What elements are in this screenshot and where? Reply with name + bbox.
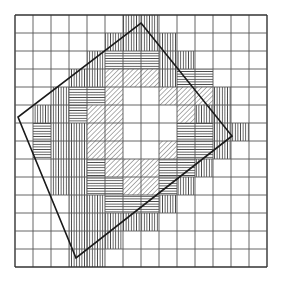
hatched-cell-r7-c8 (159, 141, 177, 159)
hatched-cell-r3-c7 (141, 69, 159, 87)
hatched-cell-r6-c3 (69, 123, 87, 141)
hatched-cell-r8-c6 (123, 159, 141, 177)
hatched-cell-r10-c3 (69, 195, 87, 213)
hatched-cell-r8-c3 (69, 159, 87, 177)
hatched-cell-r9-c3 (69, 177, 87, 195)
hatched-cell-r5-c2 (51, 105, 69, 123)
hatched-cell-r9-c2 (51, 177, 69, 195)
hatched-cell-r7-c9 (177, 141, 195, 159)
hatched-cell-r3-c10 (195, 69, 213, 87)
hatched-cell-r4-c3 (69, 87, 87, 105)
hatched-cell-r8-c7 (141, 159, 159, 177)
hatched-cell-r0-c7 (141, 15, 159, 33)
hatched-cell-r11-c3 (69, 213, 87, 231)
hatched-cell-r3-c6 (123, 69, 141, 87)
hatched-cell-r9-c6 (123, 177, 141, 195)
hatched-cell-r9-c9 (177, 177, 195, 195)
hatched-cell-r10-c8 (159, 195, 177, 213)
hatched-cell-r10-c7 (141, 195, 159, 213)
hatched-cell-r9-c7 (141, 177, 159, 195)
hatched-cell-r7-c1 (33, 141, 51, 159)
hatched-cell-r5-c3 (69, 105, 87, 123)
grid-quadrilateral-figure (0, 0, 282, 286)
hatched-cell-r2-c4 (87, 51, 105, 69)
hatched-cell-r4-c5 (105, 87, 123, 105)
hatched-cell-r7-c2 (51, 141, 69, 159)
hatched-cell-r11-c7 (141, 213, 159, 231)
hatched-cell-r5-c11 (213, 105, 231, 123)
hatched-cell-r13-c4 (87, 249, 105, 267)
hatched-cell-r6-c1 (33, 123, 51, 141)
hatched-cell-r11-c6 (123, 213, 141, 231)
hatched-cell-r8-c8 (159, 159, 177, 177)
hatched-cell-r3-c4 (87, 69, 105, 87)
hatched-cell-r7-c10 (195, 141, 213, 159)
hatched-cell-r8-c2 (51, 159, 69, 177)
hatched-cell-r2-c5 (105, 51, 123, 69)
hatched-cell-r3-c8 (159, 69, 177, 87)
hatched-cell-r4-c11 (213, 87, 231, 105)
hatched-cell-r8-c4 (87, 159, 105, 177)
figure-container (0, 0, 282, 286)
hatched-cell-r6-c9 (177, 123, 195, 141)
hatched-cell-r6-c2 (51, 123, 69, 141)
hatched-cell-r10-c6 (123, 195, 141, 213)
hatched-cell-r8-c10 (195, 159, 213, 177)
hatched-cell-r1-c6 (123, 33, 141, 51)
hatched-cell-r2-c7 (141, 51, 159, 69)
hatched-cell-r6-c5 (105, 123, 123, 141)
hatched-cell-r5-c1 (33, 105, 51, 123)
hatched-cell-r5-c5 (105, 105, 123, 123)
hatched-cell-r8-c5 (105, 159, 123, 177)
hatched-cell-r2-c8 (159, 51, 177, 69)
hatched-cell-r9-c5 (105, 177, 123, 195)
hatched-cell-r10-c5 (105, 195, 123, 213)
hatched-cell-r11-c4 (87, 213, 105, 231)
hatched-cell-r2-c6 (123, 51, 141, 69)
hatched-cell-r10-c4 (87, 195, 105, 213)
hatched-cell-r2-c9 (177, 51, 195, 69)
hatched-cell-r7-c3 (69, 141, 87, 159)
hatched-cell-r9-c4 (87, 177, 105, 195)
hatched-cell-r5-c10 (195, 105, 213, 123)
hatched-cell-r7-c5 (105, 141, 123, 159)
hatched-cell-r6-c12 (231, 123, 249, 141)
hatched-cell-r4-c8 (159, 87, 177, 105)
hatched-cell-r6-c10 (195, 123, 213, 141)
hatched-cell-r4-c9 (177, 87, 195, 105)
hatched-cell-r4-c4 (87, 87, 105, 105)
hatched-cell-r7-c4 (87, 141, 105, 159)
hatched-cell-r5-c4 (87, 105, 105, 123)
hatched-cell-r3-c5 (105, 69, 123, 87)
hatched-cell-r5-c9 (177, 105, 195, 123)
hatched-cell-r6-c4 (87, 123, 105, 141)
